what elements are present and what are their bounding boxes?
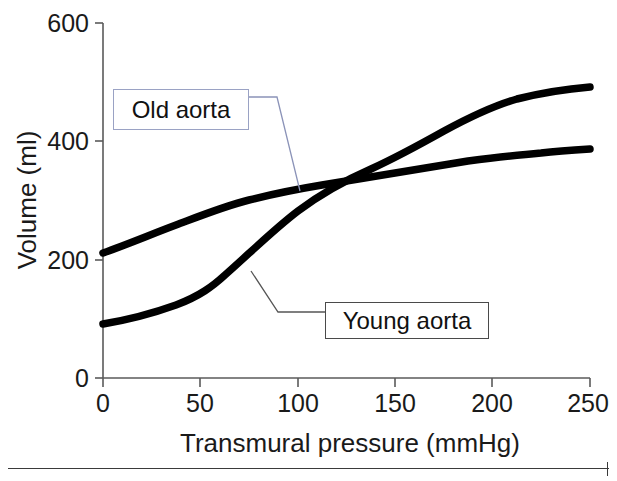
- y-tick-label-0: 0: [75, 364, 89, 392]
- x-tick-label-150: 150: [374, 389, 416, 417]
- figure-root: 600 400 200 0 0 50 100 150 200 250 Volum…: [0, 0, 617, 481]
- bottom-divider-rule: [8, 468, 609, 469]
- aorta-pressure-volume-chart: 600 400 200 0 0 50 100 150 200 250 Volum…: [0, 0, 617, 481]
- callout-young-aorta-label: Young aorta: [343, 309, 472, 333]
- y-tick-label-400: 400: [47, 127, 89, 155]
- y-tick-label-200: 200: [47, 246, 89, 274]
- x-tick-label-50: 50: [186, 389, 214, 417]
- callout-old-aorta[interactable]: Old aorta: [113, 89, 249, 130]
- x-tick-label-200: 200: [471, 389, 513, 417]
- callout-young-aorta[interactable]: Young aorta: [325, 302, 489, 339]
- callout-old-aorta-label: Old aorta: [132, 98, 231, 122]
- y-axis-title: Volume (ml): [12, 131, 42, 270]
- y-tick-label-600: 600: [47, 9, 89, 37]
- x-tick-label-100: 100: [277, 389, 319, 417]
- x-axis-title: Transmural pressure (mmHg): [180, 428, 520, 458]
- bottom-divider-end-tick: [607, 462, 608, 476]
- x-tick-label-0: 0: [96, 389, 110, 417]
- x-tick-label-250: 250: [567, 389, 609, 417]
